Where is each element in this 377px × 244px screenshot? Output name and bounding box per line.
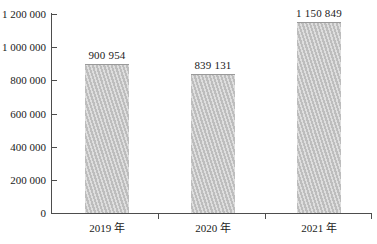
x-axis-tick-1 — [158, 214, 159, 219]
x-axis-line — [51, 213, 372, 214]
x-axis-tick-2 — [265, 214, 266, 219]
y-axis-label-1200000: 1 200 000 — [0, 9, 46, 20]
x-axis-category-2020: 2020 年 — [178, 222, 248, 234]
y-axis-label-200000: 200 000 — [0, 175, 46, 186]
y-axis-tick-1000000 — [52, 47, 57, 48]
y-axis-tick-800000 — [52, 80, 57, 81]
bar-value-2021: 1 150 849 — [286, 8, 352, 19]
bar-2020 — [191, 74, 235, 213]
bar-2021 — [297, 22, 341, 213]
x-axis-tick-3 — [371, 214, 372, 219]
y-axis-label-800000: 800 000 — [0, 75, 46, 86]
y-axis-tick-600000 — [52, 114, 57, 115]
x-axis-category-2021: 2021 年 — [284, 222, 354, 234]
bar-chart: 0 200 000 400 000 600 000 800 000 1 000 … — [0, 0, 377, 244]
y-axis-label-600000: 600 000 — [0, 109, 46, 120]
bar-2019 — [85, 64, 129, 213]
y-axis-label-400000: 400 000 — [0, 142, 46, 153]
y-axis-tick-200000 — [52, 180, 57, 181]
x-axis-category-2019: 2019 年 — [72, 222, 142, 234]
y-axis-label-1000000: 1 000 000 — [0, 42, 46, 53]
y-axis-tick-1200000 — [52, 14, 57, 15]
y-axis-tick-400000 — [52, 147, 57, 148]
y-axis-label-0: 0 — [0, 208, 46, 219]
bar-value-2019: 900 954 — [77, 50, 137, 61]
bar-value-2020: 839 131 — [183, 60, 243, 71]
